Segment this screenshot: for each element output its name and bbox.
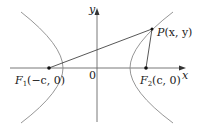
origin-label: 0 bbox=[89, 69, 96, 82]
hyperbola-left-branch bbox=[21, 12, 63, 123]
point-P-label: P(x, y) bbox=[156, 26, 192, 39]
focus-F1-point bbox=[47, 66, 51, 70]
x-axis-label: x bbox=[182, 69, 189, 82]
y-axis-arrow-icon bbox=[95, 8, 100, 15]
point-P bbox=[151, 28, 154, 31]
focus-F1-label: F1(−c, 0) bbox=[14, 74, 65, 88]
y-axis-label: y bbox=[88, 3, 96, 16]
focus-F2-label: F2(c, 0) bbox=[139, 74, 181, 88]
hyperbola-diagram: y x 0 F1(−c, 0) F2(c, 0) P(x, y) bbox=[0, 0, 201, 138]
focus-F2-point bbox=[144, 66, 148, 70]
